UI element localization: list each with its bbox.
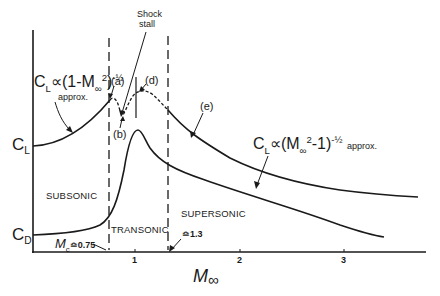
b-arrowhead [120,116,125,121]
x-axis-label: M∞ [193,266,219,287]
supersonic-approx-label: approx. [347,141,377,151]
x-tick-label-1: 1 [132,255,137,265]
subsonic-approx-label: approx. [58,92,88,102]
x-tick-label-3: 3 [341,255,346,265]
supersonic-region-label: SUPERSONIC [181,208,246,219]
e-pointer [193,113,203,135]
transonic-region-label: TRANSONIC [111,224,169,235]
subsonic-formula-arrow [55,102,70,130]
upper-transonic-label: ≏1.3 [182,229,203,239]
subsonic-region-label: SUBSONIC [46,190,97,201]
point-b-label: (b) [113,128,126,140]
lift-curve-subsonic [33,100,110,146]
shock-stall-label: Shock stall [137,9,162,29]
cl-axis-label: CL [12,135,30,156]
point-d-label: (d) [145,74,158,86]
supersonic-lift-formula: CL∝(M∞2-1)-½ approx. [253,134,377,156]
point-e-label: (e) [200,100,213,112]
lift-curve-transonic-dashed [110,91,168,115]
shock-stall-pointer [122,32,146,113]
x-tick-label-2: 2 [237,255,242,265]
supersonic-formula-arrowhead [254,181,260,189]
critical-mach-label: Mc≏0.75 [55,236,95,254]
cd-axis-label: CD [12,225,32,246]
lift-drag-mach-diagram: CL CD 1 2 3 M∞ SUBSONIC TRANSONIC SUPERS… [0,0,440,296]
subsonic-lift-formula: CL∝(1-M∞2)-½ [34,72,124,94]
